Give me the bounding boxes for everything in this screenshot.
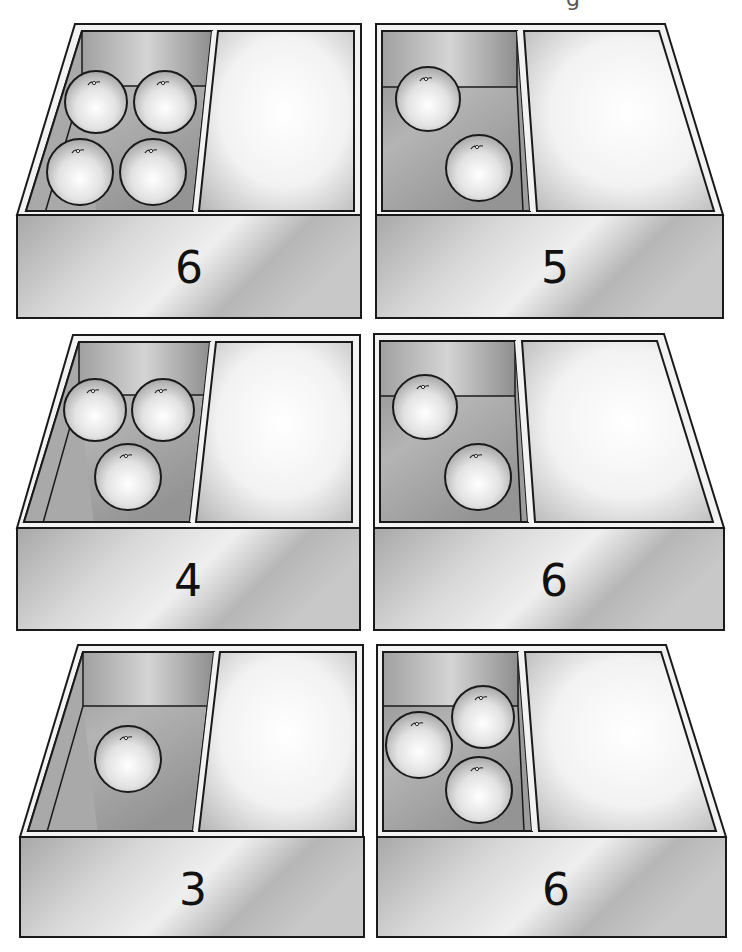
empty-compartment[interactable] <box>524 31 714 211</box>
orange-icon <box>132 379 194 441</box>
box-number: 4 <box>174 555 202 606</box>
orange-icon <box>396 67 460 131</box>
box-5: 3 <box>20 645 364 937</box>
box-number: 3 <box>179 864 207 915</box>
back-wall <box>83 652 214 706</box>
empty-compartment[interactable] <box>199 31 354 211</box>
worksheet: g <box>0 0 742 952</box>
orange-icon <box>47 139 113 205</box>
empty-compartment[interactable] <box>522 341 713 522</box>
header-fragment: g <box>566 0 580 11</box>
orange-icon <box>386 712 452 778</box>
orange-icon <box>445 444 511 510</box>
orange-icon <box>95 726 161 792</box>
orange-icon <box>393 375 457 439</box>
orange-icon <box>446 757 512 823</box>
boxes-illustration: 654636 <box>0 0 742 952</box>
orange-icon <box>64 379 126 441</box>
box-number: 6 <box>540 555 568 606</box>
orange-icon <box>120 139 186 205</box>
box-4: 6 <box>374 334 724 630</box>
orange-icon <box>452 686 514 748</box>
boxes-layer: 654636 <box>17 24 726 937</box>
orange-icon <box>134 71 196 133</box>
empty-compartment[interactable] <box>196 342 352 522</box>
box-1: 6 <box>17 24 361 318</box>
empty-compartment[interactable] <box>199 652 356 831</box>
orange-icon <box>95 444 161 510</box>
box-number: 5 <box>541 242 569 293</box>
empty-compartment[interactable] <box>525 652 716 831</box>
box-2: 5 <box>376 24 723 318</box>
box-number: 6 <box>175 242 203 293</box>
orange-icon <box>446 135 512 201</box>
box-6: 6 <box>377 645 726 937</box>
box-number: 6 <box>542 864 570 915</box>
box-3: 4 <box>17 335 360 630</box>
orange-icon <box>65 71 127 133</box>
